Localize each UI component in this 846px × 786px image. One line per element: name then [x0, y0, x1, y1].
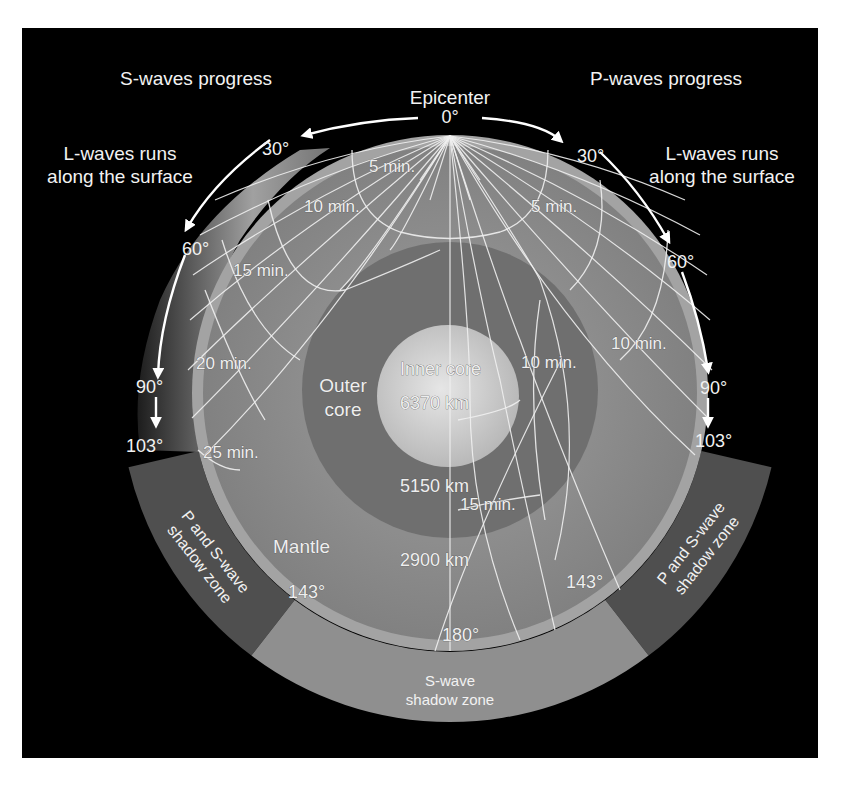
l-waves-right-line2: along the surface	[649, 166, 795, 187]
degree-0: 0°	[441, 107, 458, 127]
l-waves-left-line2: along the surface	[47, 166, 193, 187]
l-waves-left-line1: L-waves runs	[64, 143, 177, 164]
time-s-15min: 15 min.	[233, 261, 289, 280]
degree-right-60: 60°	[667, 252, 694, 272]
degree-180: 180°	[442, 625, 479, 645]
degree-right-30: 30°	[577, 146, 604, 166]
s-waves-progress-label: S-waves progress	[120, 68, 272, 89]
outer-core-label-line1: Outer	[319, 375, 367, 396]
outer-core-depth: 5150 km	[400, 476, 469, 496]
time-s-10min: 10 min.	[304, 197, 360, 216]
time-s-5min: 5 min.	[369, 157, 415, 176]
arrow-s-top	[305, 118, 418, 135]
degree-left-30: 30°	[262, 139, 289, 159]
degree-right-103: 103°	[695, 431, 732, 451]
epicenter-label: Epicenter	[410, 87, 491, 108]
time-s-25min: 25 min.	[203, 443, 259, 462]
arrow-p-top	[482, 118, 560, 140]
time-p-10min-right: 10 min.	[611, 334, 667, 353]
degree-inner-left-143: 143°	[288, 582, 325, 602]
time-p-5min: 5 min.	[531, 197, 577, 216]
p-waves-progress-label: P-waves progress	[590, 68, 742, 89]
time-p-10min-core: 10 min.	[521, 353, 577, 372]
time-s-20min: 20 min.	[196, 354, 252, 373]
degree-right-90: 90°	[700, 378, 727, 398]
inner-core-depth: 6370 km	[400, 393, 469, 413]
degree-inner-right-143: 143°	[566, 572, 603, 592]
time-p-15min: 15 min.	[460, 495, 516, 514]
s-shadow-zone-line1: S-wave	[425, 672, 475, 689]
degree-left-103: 103°	[126, 436, 163, 456]
outer-core-label-line2: core	[325, 399, 362, 420]
degree-left-60: 60°	[182, 239, 209, 259]
s-shadow-zone-line2: shadow zone	[406, 691, 494, 708]
mantle-label: Mantle	[273, 536, 330, 557]
earth-seismic-wave-diagram: S-waves progress P-waves progress Epicen…	[0, 0, 846, 786]
mantle-depth: 2900 km	[400, 550, 469, 570]
l-waves-right-line1: L-waves runs	[666, 143, 779, 164]
degree-left-90: 90°	[136, 377, 163, 397]
inner-core-label: Inner core	[400, 359, 481, 379]
